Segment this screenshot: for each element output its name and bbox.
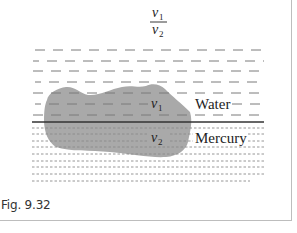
volume-ratio-fraction: v 1 v 2 — [150, 5, 167, 39]
floating-body-blob — [44, 84, 191, 157]
svg-text:1: 1 — [158, 103, 163, 113]
water-label: Water — [195, 96, 230, 112]
svg-text:2: 2 — [158, 137, 163, 147]
svg-text:v: v — [151, 96, 158, 111]
ratio-numerator: v — [152, 5, 159, 20]
ratio-numerator-subscript: 1 — [159, 12, 164, 22]
mercury-label: Mercury — [195, 130, 247, 146]
ratio-denominator-subscript: 2 — [159, 29, 164, 39]
ratio-denominator: v — [152, 22, 159, 37]
figure-caption: Fig. 9.32 — [1, 198, 51, 212]
svg-text:v: v — [151, 130, 158, 145]
